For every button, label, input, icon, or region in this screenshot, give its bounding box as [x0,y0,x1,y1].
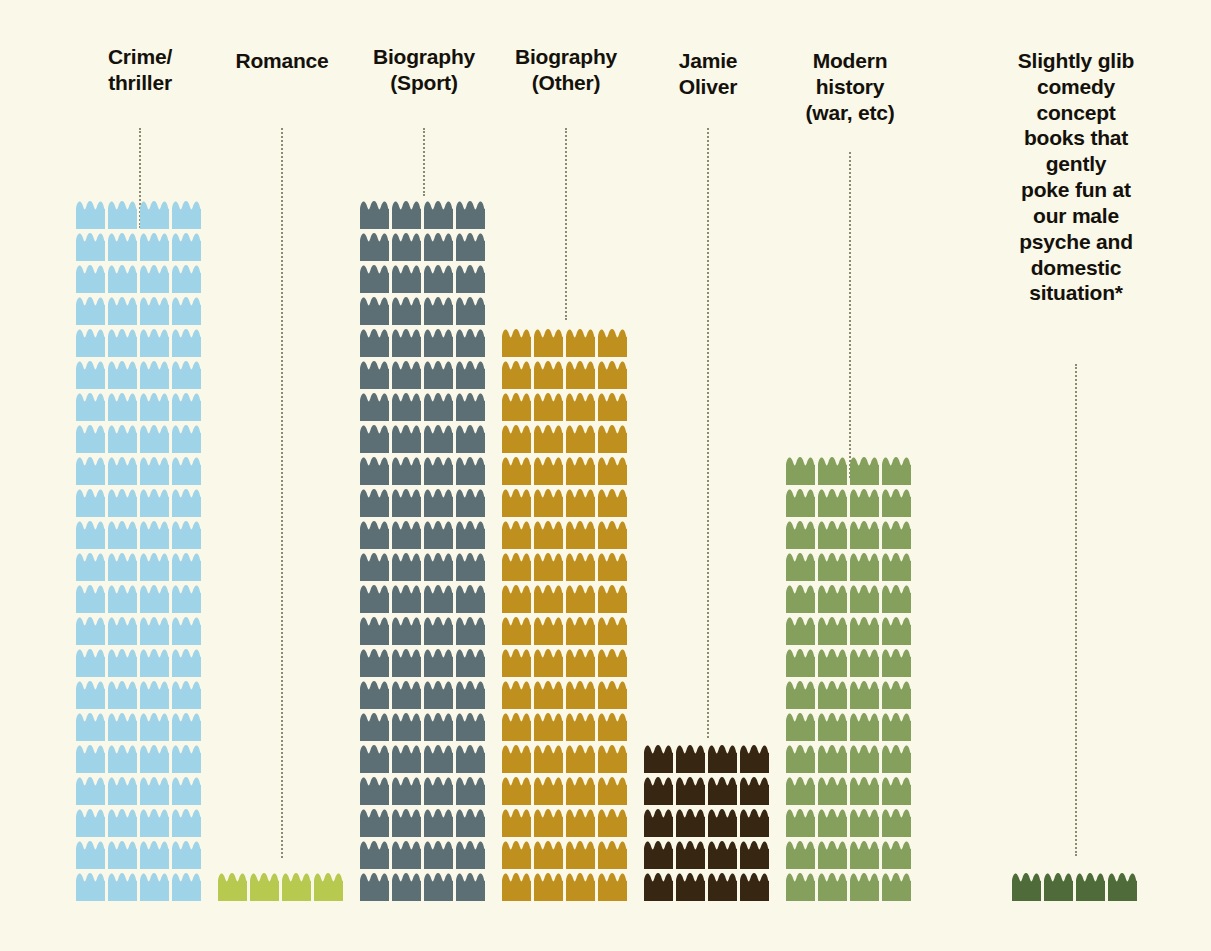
stack-of-books-icon [392,873,424,905]
stack-of-books-icon [140,489,172,521]
stack-of-books-icon [392,841,424,873]
label-line: Oliver [632,74,784,100]
stack-of-books-icon [140,617,172,649]
stack-of-books-icon [360,457,392,489]
stack-of-books-icon [424,745,456,777]
stack-of-books-icon [534,521,566,553]
stack-of-books-icon [108,681,140,713]
label-line: comedy [996,74,1156,100]
stack-of-books-icon [566,489,598,521]
icon-row [502,873,630,905]
stack-of-books-icon [456,393,488,425]
stack-of-books-icon [76,649,108,681]
label-line: (Sport) [348,70,500,96]
stack-of-books-icon [76,553,108,585]
stack-of-books-icon [172,393,204,425]
icon-row [644,841,772,873]
stack-of-books-icon [818,489,850,521]
stack-of-books-icon [818,745,850,777]
stack-of-books-icon [456,585,488,617]
icon-row [76,841,204,873]
category-group-biography-other: Biography(Other) [502,0,630,951]
icon-row [502,777,630,809]
stack-of-books-icon [818,777,850,809]
stack-of-books-icon [708,745,740,777]
stack-of-books-icon [566,841,598,873]
stack-of-books-icon [598,329,630,361]
icon-row [502,329,630,361]
stack-of-books-icon [818,841,850,873]
stack-of-books-icon [644,841,676,873]
icon-stack-glib-comedy [1012,873,1140,905]
icon-row [218,873,346,905]
stack-of-books-icon [456,617,488,649]
stack-of-books-icon [456,297,488,329]
category-group-biography-sport: Biography(Sport) [360,0,488,951]
stack-of-books-icon [598,873,630,905]
stack-of-books-icon [76,201,108,233]
stack-of-books-icon [108,553,140,585]
stack-of-books-icon [76,521,108,553]
stack-of-books-icon [392,457,424,489]
icon-row [360,265,488,297]
stack-of-books-icon [850,489,882,521]
stack-of-books-icon [424,873,456,905]
stack-of-books-icon [644,809,676,841]
stack-of-books-icon [172,297,204,329]
icon-row [360,841,488,873]
leader-line-biography-sport [423,128,427,196]
leader-line-jamie-oliver [707,128,711,738]
stack-of-books-icon [108,233,140,265]
icon-row [786,649,914,681]
icon-row [502,617,630,649]
stack-of-books-icon [456,489,488,521]
stack-of-books-icon [140,329,172,361]
icon-row [502,681,630,713]
stack-of-books-icon [676,841,708,873]
stack-of-books-icon [598,425,630,457]
stack-of-books-icon [108,809,140,841]
stack-of-books-icon [172,233,204,265]
stack-of-books-icon [786,745,818,777]
icon-stack-biography-sport [360,201,488,905]
stack-of-books-icon [424,233,456,265]
icon-row [786,585,914,617]
stack-of-books-icon [108,361,140,393]
stack-of-books-icon [598,809,630,841]
icon-row [786,553,914,585]
stack-of-books-icon [140,201,172,233]
category-group-modern-history: Modernhistory(war, etc) [786,0,914,951]
stack-of-books-icon [850,649,882,681]
icon-row [786,521,914,553]
icon-row [1012,873,1140,905]
stack-of-books-icon [108,777,140,809]
category-label-romance: Romance [206,48,358,74]
stack-of-books-icon [360,745,392,777]
stack-of-books-icon [76,329,108,361]
stack-of-books-icon [502,649,534,681]
stack-of-books-icon [456,841,488,873]
label-line: concept [996,100,1156,126]
stack-of-books-icon [392,201,424,233]
stack-of-books-icon [360,713,392,745]
icon-row [502,809,630,841]
stack-of-books-icon [108,713,140,745]
stack-of-books-icon [850,681,882,713]
icon-row [360,745,488,777]
stack-of-books-icon [76,265,108,297]
stack-of-books-icon [456,265,488,297]
stack-of-books-icon [392,489,424,521]
icon-row [76,265,204,297]
stack-of-books-icon [140,681,172,713]
stack-of-books-icon [140,457,172,489]
stack-of-books-icon [502,457,534,489]
icon-row [76,553,204,585]
stack-of-books-icon [882,617,914,649]
stack-of-books-icon [172,201,204,233]
stack-of-books-icon [882,873,914,905]
icon-row [502,489,630,521]
category-group-crime-thriller: Crime/thriller [76,0,204,951]
stack-of-books-icon [218,873,250,905]
stack-of-books-icon [424,841,456,873]
stack-of-books-icon [424,329,456,361]
